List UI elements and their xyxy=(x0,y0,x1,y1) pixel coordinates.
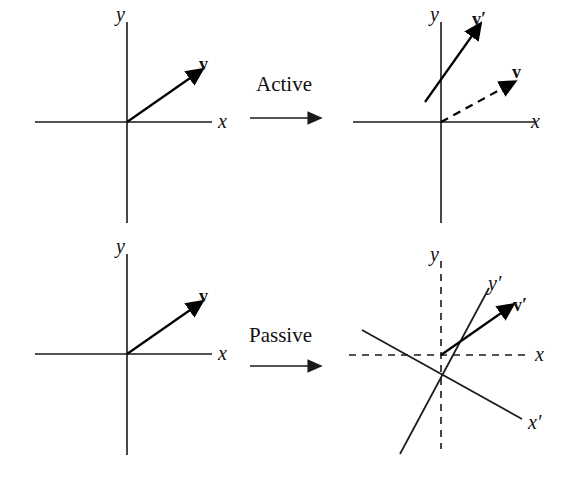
axis-label-x: x xyxy=(535,344,544,364)
vector-label-v-prime: v′ xyxy=(472,10,486,28)
axis-label-y: y xyxy=(116,4,125,24)
y-prime-axis-line xyxy=(400,288,489,454)
vector-label-v: v xyxy=(199,55,208,73)
axis-label-x-prime: x′ xyxy=(528,412,541,432)
axis-label-y-prime: y′ xyxy=(488,273,501,293)
axis-label-x: x xyxy=(218,111,227,131)
panel-bottom-left xyxy=(35,254,212,455)
axis-label-x: x xyxy=(218,343,227,363)
axis-label-y: y xyxy=(116,236,125,256)
vector-label-v: v xyxy=(199,287,208,305)
transformation-figure: x y v Active x y v′ v x y v Passive x y … xyxy=(0,0,572,481)
operation-label-passive: Passive xyxy=(249,325,312,346)
vector-v-arrow xyxy=(127,308,193,354)
axis-label-y: y xyxy=(430,4,439,24)
operation-label-active: Active xyxy=(256,74,312,95)
vector-v-arrow xyxy=(127,76,193,122)
panel-top-right xyxy=(353,22,535,223)
axis-label-x: x xyxy=(531,111,540,131)
vector-label-v-prime: v′ xyxy=(513,296,527,314)
axis-label-y: y xyxy=(430,244,439,264)
panel-top-left xyxy=(35,22,212,223)
vector-label-v: v xyxy=(512,63,521,81)
vector-v-dashed-arrow xyxy=(441,87,505,122)
vector-v-prime-arrow xyxy=(425,33,474,102)
